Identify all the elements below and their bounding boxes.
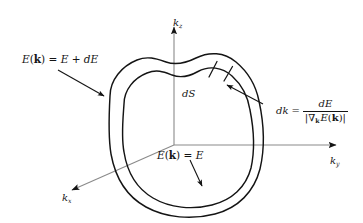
outer-surface-arrow — [58, 70, 104, 96]
surface-element-slab — [209, 62, 233, 82]
dk-fraction: dE |∇kE(k)| — [303, 99, 348, 124]
inner-surface-label: E(k) = E — [157, 150, 203, 161]
kz-axis-label: kz — [173, 18, 182, 29]
kx-axis-label: kx — [62, 193, 72, 204]
surface-element-label: dS — [182, 89, 195, 99]
figure-canvas: kz ky kx E(k) = E + dE E(k) = E dS dk = … — [0, 0, 363, 223]
dk-formula: dk = dE |∇kE(k)| — [276, 99, 348, 124]
dk-denominator: |∇kE(k)| — [303, 111, 348, 124]
dk-lhs: dk — [276, 106, 288, 116]
ky-axis-label: ky — [330, 156, 340, 167]
inner-surface-arrow — [190, 160, 202, 186]
outer-surface-label: E(k) = E + dE — [22, 54, 98, 65]
dk-equals: = — [291, 106, 299, 116]
dk-numerator: dE — [317, 99, 335, 111]
outer-energy-surface — [109, 54, 263, 218]
